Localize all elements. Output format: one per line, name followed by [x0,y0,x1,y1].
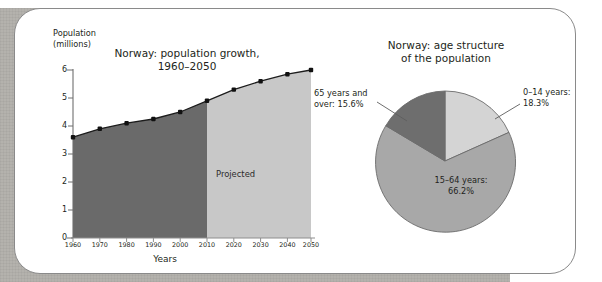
figure-card: Population (millions) Norway: population… [14,8,576,274]
age-structure-chart: Norway: age structure of the population … [315,9,576,273]
x-tick-2010: 2010 [194,241,220,249]
callout-65-and-over: 65 years and over: 15.6% [314,88,390,110]
y-tick-marks [67,70,73,238]
x-tick-2030: 2030 [248,241,274,249]
callout-0-14: 0–14 years: 18.3% [523,87,576,109]
callout-15-64: 15–64 years: 66.2% [419,175,503,197]
projected-area [207,70,311,238]
callout-line-0-14 [495,104,520,119]
x-tick-1990: 1990 [140,241,166,249]
area-plot [15,9,315,274]
x-tick-1960: 1960 [60,241,86,249]
x-tick-2020: 2020 [221,241,247,249]
pie-plot [315,9,576,274]
x-tick-2000: 2000 [167,241,193,249]
x-tick-1980: 1980 [114,241,140,249]
x-tick-1970: 1970 [87,241,113,249]
x-tick-2040: 2040 [274,241,300,249]
page-background-white-top [0,0,602,8]
population-growth-chart: Population (millions) Norway: population… [15,9,315,273]
x-axis-label: Years [15,254,315,264]
projected-annotation: Projected [216,169,255,179]
